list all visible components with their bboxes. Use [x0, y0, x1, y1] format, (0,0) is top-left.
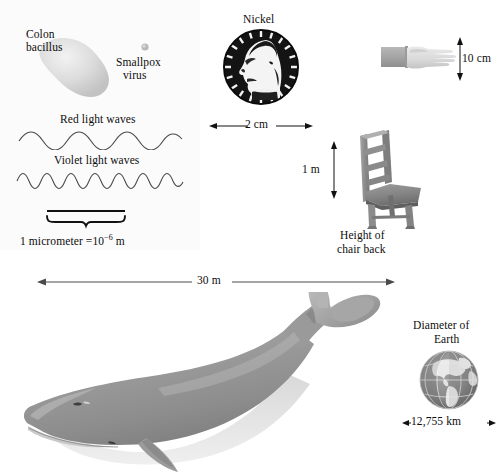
earth-globe-icon — [418, 349, 480, 411]
colon-bacillus-label-line1: Colon — [26, 28, 55, 41]
whale-dimension-label: 30 m — [197, 274, 221, 287]
micrometer-scale-label: 1 micrometer =10−6 m — [20, 231, 125, 248]
colon-bacillus-label-line2: bacillus — [26, 41, 63, 54]
earth-dimension-label: 12,755 km — [411, 415, 461, 428]
chair-dimension-label: 1 m — [302, 163, 320, 176]
chair-label-line2: chair back — [337, 243, 386, 256]
violet-light-sine-wave-icon — [16, 170, 184, 192]
micrometer-scale-unit: m — [113, 235, 125, 247]
hand-with-sleeve-icon — [380, 38, 458, 78]
violet-light-waves-label: Violet light waves — [54, 154, 139, 167]
nickel-label: Nickel — [243, 13, 274, 26]
smallpox-virus-label-line2: virus — [123, 69, 147, 82]
red-light-sine-wave-icon — [18, 128, 183, 150]
blue-whale-icon — [18, 292, 408, 474]
chair-label-line1: Height of — [340, 229, 385, 242]
earth-label-line1: Diameter of — [413, 319, 469, 332]
earth-label-line2: Earth — [434, 333, 459, 346]
micrometer-scale-exponent: −6 — [104, 233, 113, 242]
hand-dimension-label: 10 cm — [462, 52, 491, 65]
red-light-waves-label: Red light waves — [60, 113, 136, 126]
nickel-dimension-label: 2 cm — [245, 118, 268, 131]
brace-scale-bar-icon — [44, 208, 128, 230]
scale-comparison-figure: Colon bacillus Smallpox virus Red light … — [0, 0, 499, 474]
virus-dot-icon — [139, 41, 151, 53]
chair-dimension-arrow — [326, 140, 342, 200]
ladder-back-chair-icon — [348, 130, 426, 230]
micrometer-scale-text: 1 micrometer =10 — [20, 235, 104, 247]
nickel-coin-icon — [222, 28, 300, 106]
smallpox-virus-label-line1: Smallpox — [116, 56, 161, 69]
